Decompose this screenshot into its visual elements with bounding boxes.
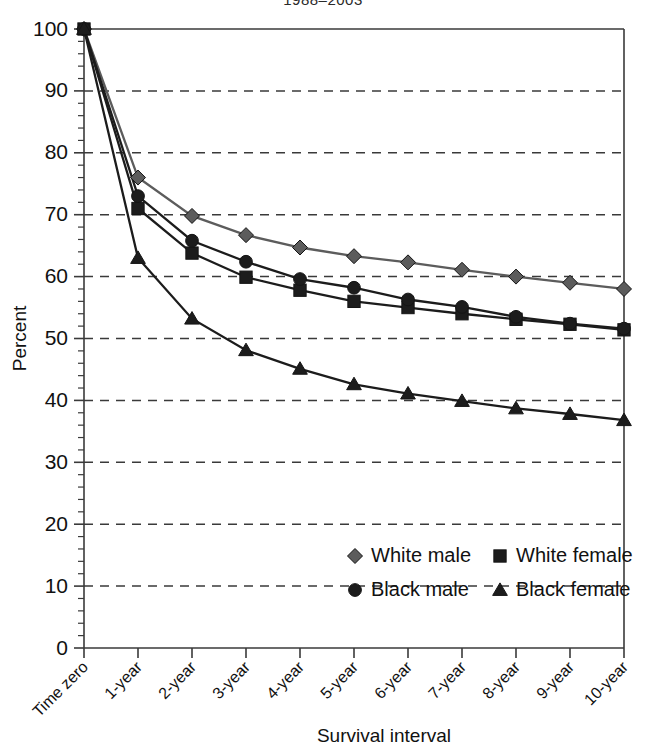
x-tick-label-1: 1-year (101, 658, 146, 703)
y-tick-label-20: 20 (45, 512, 68, 535)
legend-white-female-square-marker (494, 550, 506, 562)
series-white-female-pt5-square-marker (348, 295, 360, 307)
series-white-female-pt1-square-marker (132, 202, 144, 214)
series-white-male-pt3-diamond-marker (239, 228, 254, 243)
series-white-male-pt8-diamond-marker (509, 269, 524, 284)
y-tick-label-50: 50 (45, 326, 68, 349)
x-tick-label-8: 8-year (479, 658, 524, 703)
legend-white-male-diamond-marker (348, 549, 363, 564)
y-tick-label-90: 90 (45, 78, 68, 101)
series-white-male-pt2-diamond-marker (185, 208, 200, 223)
y-tick-label-10: 10 (45, 574, 68, 597)
x-tick-label-6: 6-year (371, 658, 416, 703)
legend-black-male-circle-marker (349, 584, 362, 597)
survival-line-chart: 0102030405060708090100PercentTime zero1-… (0, 0, 646, 756)
y-tick-label-40: 40 (45, 388, 68, 411)
legend-label-white-female: White female (516, 544, 633, 566)
survival-chart-figure: 1988–2003 0102030405060708090100PercentT… (0, 0, 646, 756)
x-tick-label-10: 10-year (581, 658, 632, 709)
y-tick-label-0: 0 (56, 636, 68, 659)
series-black-female-pt3-triangle-marker (239, 343, 254, 356)
series-white-male-pt9-diamond-marker (563, 275, 578, 290)
series-black-female-pt1-triangle-marker (131, 251, 146, 264)
series-black-male-pt1-circle-marker (132, 190, 145, 203)
x-axis-title: Survival interval (317, 725, 451, 746)
series-white-female-pt2-square-marker (186, 247, 198, 259)
legend-label-black-female: Black female (516, 578, 631, 600)
y-tick-label-60: 60 (45, 264, 68, 287)
series-black-male-pt6-circle-marker (402, 293, 415, 306)
series-black-male-pt2-circle-marker (186, 234, 199, 247)
y-tick-label-30: 30 (45, 450, 68, 473)
y-tick-label-80: 80 (45, 140, 68, 163)
series-white-male-pt7-diamond-marker (455, 262, 470, 277)
series-white-male-pt5-diamond-marker (347, 249, 362, 264)
x-tick-label-9: 9-year (533, 658, 578, 703)
series-black-male-pt3-circle-marker (240, 255, 253, 268)
y-tick-label-100: 100 (33, 17, 68, 40)
series-black-male-pt8-circle-marker (510, 310, 523, 323)
x-tick-label-0: Time zero (29, 658, 91, 720)
x-tick-label-4: 4-year (263, 658, 308, 703)
legend-label-white-male: White male (371, 544, 471, 566)
series-black-male-pt7-circle-marker (456, 301, 469, 314)
legend-label-black-male: Black male (371, 578, 469, 600)
legend-black-female-triangle-marker (493, 583, 508, 596)
series-black-male-pt4-circle-marker (294, 273, 307, 286)
series-white-male-pt10-diamond-marker (617, 281, 632, 296)
series-white-male-pt6-diamond-marker (401, 255, 416, 270)
x-tick-label-7: 7-year (425, 658, 470, 703)
series-white-male-pt4-diamond-marker (293, 240, 308, 255)
x-tick-label-3: 3-year (209, 658, 254, 703)
y-tick-label-70: 70 (45, 202, 68, 225)
series-line-black-female (84, 29, 624, 420)
y-axis-title: Percent (9, 305, 30, 371)
series-black-male-pt9-circle-marker (564, 317, 577, 330)
series-black-male-pt5-circle-marker (348, 281, 361, 294)
series-black-male-pt10-circle-marker (618, 322, 631, 335)
x-tick-label-2: 2-year (155, 658, 200, 703)
x-tick-label-5: 5-year (317, 658, 362, 703)
series-white-female-pt3-square-marker (240, 271, 252, 283)
